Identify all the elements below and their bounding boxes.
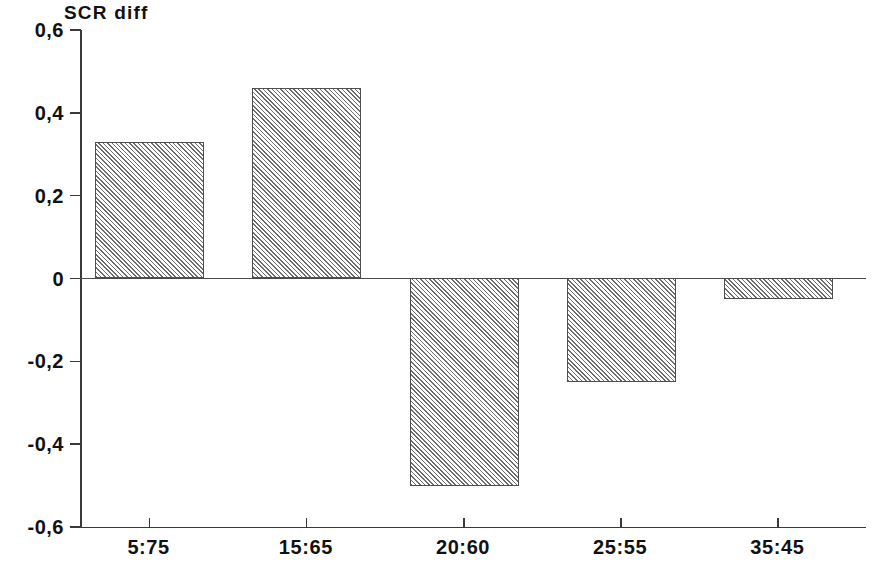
- x-axis-tick: [149, 518, 151, 527]
- x-axis-tick-label: 35:45: [697, 536, 857, 559]
- bar: [410, 278, 519, 486]
- x-axis-tick-label: 20:60: [383, 536, 543, 559]
- y-axis-tick-label: 0,6: [0, 19, 64, 42]
- y-axis-tick-label: -0,6: [0, 516, 64, 539]
- y-axis-tick: [70, 195, 81, 197]
- x-axis-tick: [620, 518, 622, 527]
- y-axis-tick-label: -0,4: [0, 433, 64, 456]
- y-axis-tick-label: 0: [0, 267, 64, 290]
- y-axis-tick: [70, 443, 81, 445]
- x-axis-tick: [777, 518, 779, 527]
- y-axis-tick: [70, 526, 81, 528]
- bar: [252, 88, 361, 278]
- x-axis-tick-label: 5:75: [69, 536, 229, 559]
- x-axis-line: [80, 527, 866, 529]
- chart-figure: SCR diff 0,60,40,20-0,2-0,4-0,6 5:7515:6…: [0, 0, 872, 568]
- x-axis-tick-label: 25:55: [540, 536, 700, 559]
- y-axis-tick: [70, 112, 81, 114]
- chart-title: SCR diff: [64, 2, 149, 24]
- bar: [95, 142, 204, 278]
- y-axis-tick-label: 0,2: [0, 184, 64, 207]
- y-axis-tick: [70, 29, 81, 31]
- bar: [567, 278, 676, 382]
- x-axis-tick-label: 15:65: [226, 536, 386, 559]
- y-axis-tick-label: 0,4: [0, 101, 64, 124]
- x-axis-tick: [463, 518, 465, 527]
- zero-baseline: [80, 278, 866, 279]
- y-axis-tick-label: -0,2: [0, 350, 64, 373]
- bar: [724, 278, 833, 299]
- y-axis-tick: [70, 361, 81, 363]
- x-axis-tick: [306, 518, 308, 527]
